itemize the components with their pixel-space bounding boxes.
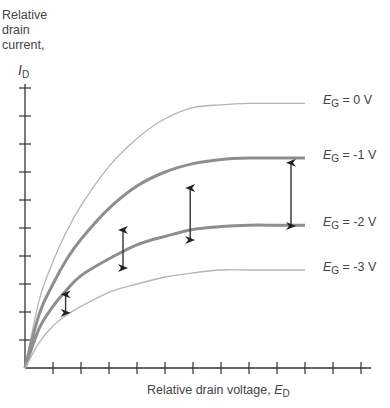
legend-label-2: EG = -2 V xyxy=(323,215,376,231)
x-axis-label: Relative drain voltage, ED xyxy=(147,383,290,399)
legend-label-0: EG = 0 V xyxy=(323,93,372,109)
curve-3 xyxy=(25,270,305,368)
arrows xyxy=(66,163,291,313)
x-axis-label-text: Relative drain voltage, xyxy=(147,383,271,397)
legend-label-3: EG = -3 V xyxy=(323,260,376,276)
x-symbol-sub: D xyxy=(283,388,290,399)
chart-plot-area xyxy=(0,0,390,408)
legend-label-1: EG = -1 V xyxy=(323,148,376,164)
curve-2 xyxy=(25,225,305,368)
curve-1 xyxy=(25,158,305,368)
curves xyxy=(25,103,305,368)
x-symbol-var: E xyxy=(274,383,282,397)
